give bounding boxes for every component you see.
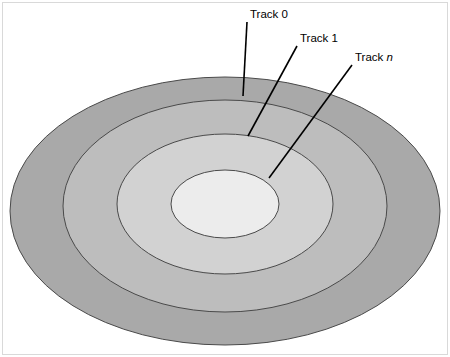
ring-inner <box>171 170 279 238</box>
diagram-canvas: Track 0 Track 1 Track n <box>0 0 450 357</box>
disk-track-diagram: Track 0 Track 1 Track n <box>0 0 450 357</box>
label-track-0: Track 0 <box>250 8 288 20</box>
label-track-1-text: Track 1 <box>300 32 338 44</box>
label-track-n-italic: n <box>387 51 393 63</box>
label-track-n-text: Track <box>355 51 387 63</box>
label-track-n: Track n <box>355 51 393 63</box>
label-track-0-text: Track 0 <box>250 8 288 20</box>
label-track-1: Track 1 <box>300 32 338 44</box>
